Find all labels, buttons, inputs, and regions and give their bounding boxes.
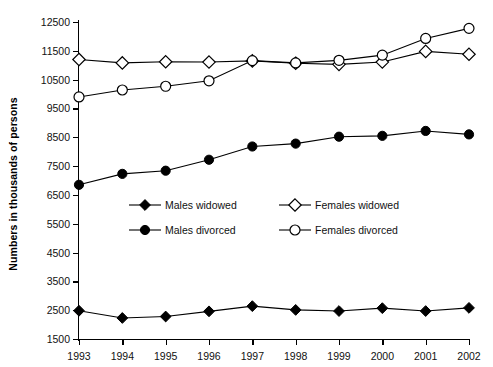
y-axis-title-text: Numbers in thousands of persons [7, 97, 19, 270]
y-axis-tick-label: 5500 [47, 218, 70, 230]
x-axis-tick [252, 339, 253, 345]
series-layer [79, 22, 469, 339]
x-axis-tick-label: 2001 [414, 350, 437, 362]
plot-area: 1500250035004500550065007500850095001050… [79, 22, 469, 339]
data-point [161, 166, 170, 175]
legend-marker [289, 199, 301, 211]
chart-figure: Numbers in thousands of persons 15002500… [0, 0, 493, 367]
data-point [291, 139, 300, 148]
legend-label: Males divorced [165, 224, 236, 236]
data-point [204, 306, 215, 317]
y-axis-tick-label: 11500 [42, 45, 70, 57]
data-point [290, 304, 301, 315]
data-point [248, 142, 257, 151]
legend-marker [140, 200, 151, 211]
y-axis-tick-label: 10500 [41, 74, 70, 86]
data-point [463, 48, 475, 60]
data-point [464, 130, 473, 139]
x-axis-tick-label: 1999 [327, 350, 350, 362]
x-axis-tick [209, 339, 210, 345]
x-axis-tick-label: 1994 [111, 350, 134, 362]
data-point [74, 180, 83, 189]
data-point [117, 85, 127, 95]
data-point [118, 169, 127, 178]
data-point [204, 155, 213, 164]
y-axis-title: Numbers in thousands of persons [2, 0, 24, 367]
series-males-divorced [74, 126, 473, 189]
data-point [334, 132, 343, 141]
legend-item: Females divorced [278, 223, 428, 237]
chart-legend: Males widowedFemales widowedMales divorc… [128, 198, 428, 237]
x-axis-tick [339, 339, 340, 345]
data-point [204, 76, 214, 86]
y-axis-tick-label: 4500 [47, 247, 70, 259]
data-point [74, 92, 84, 102]
data-point [117, 313, 128, 324]
data-point [464, 302, 475, 313]
x-axis-tick-label: 1998 [284, 350, 307, 362]
x-axis-line [78, 339, 470, 340]
data-point [247, 56, 257, 66]
legend-label: Females widowed [315, 199, 399, 211]
legend-item: Males divorced [128, 223, 278, 237]
y-axis-tick-label: 12500 [41, 16, 70, 28]
x-axis-tick [122, 339, 123, 345]
data-point [377, 303, 388, 314]
data-point [73, 53, 85, 65]
legend-item: Females widowed [278, 198, 428, 212]
legend-marker-icon [128, 198, 162, 212]
x-axis-tick-label: 2002 [457, 350, 480, 362]
x-axis-tick [79, 339, 80, 345]
x-axis-tick [382, 339, 383, 345]
data-point [420, 306, 431, 317]
data-point [160, 311, 171, 322]
series-males-widowed [74, 301, 475, 324]
data-point [334, 306, 345, 317]
y-axis-tick-label: 1500 [47, 333, 70, 345]
legend-item: Males widowed [128, 198, 278, 212]
data-point [159, 56, 171, 68]
data-point [74, 305, 85, 316]
data-point [421, 126, 430, 135]
legend-label: Females divorced [315, 224, 398, 236]
data-point [464, 23, 474, 33]
x-axis-tick [469, 339, 470, 345]
series-line [79, 131, 469, 185]
y-axis-tick-label: 8500 [47, 131, 70, 143]
data-point [247, 301, 258, 312]
legend-marker-icon [128, 223, 162, 237]
series-females-widowed [73, 45, 475, 70]
series-line [79, 51, 469, 64]
x-axis-tick-label: 1993 [67, 350, 90, 362]
data-point [334, 55, 344, 65]
y-axis-tick-label: 6500 [47, 189, 70, 201]
legend-marker [290, 225, 300, 235]
legend-marker-icon [278, 198, 312, 212]
legend-label: Males widowed [165, 199, 237, 211]
data-point [116, 57, 128, 69]
data-point [419, 45, 431, 57]
legend-marker-icon [278, 223, 312, 237]
y-axis-tick-label: 2500 [47, 304, 70, 316]
series-line [79, 306, 469, 318]
x-axis-tick [166, 339, 167, 345]
data-point [377, 50, 387, 60]
y-axis-tick-label: 9500 [47, 102, 70, 114]
x-axis-tick-label: 2000 [371, 350, 394, 362]
data-point [291, 58, 301, 68]
y-axis-tick-label: 7500 [47, 160, 70, 172]
x-axis-tick [296, 339, 297, 345]
data-point [161, 81, 171, 91]
x-axis-tick-label: 1997 [241, 350, 264, 362]
x-axis-tick-label: 1996 [197, 350, 220, 362]
x-axis-tick-label: 1995 [154, 350, 177, 362]
legend-marker [140, 225, 149, 234]
data-point [421, 33, 431, 43]
data-point [378, 131, 387, 140]
x-axis-tick [426, 339, 427, 345]
data-point [203, 56, 215, 68]
y-axis-tick-label: 3500 [47, 275, 70, 287]
